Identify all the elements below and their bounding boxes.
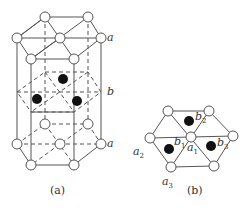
label-a2: a2 xyxy=(133,146,144,160)
label-top-layer-a: a xyxy=(107,32,114,43)
label-b1: b1 xyxy=(174,136,186,150)
label-bottom-layer-a: a xyxy=(107,138,114,149)
hcp-structure-diagram xyxy=(0,0,251,211)
label-b3: b3 xyxy=(217,137,229,151)
caption-a: (a) xyxy=(50,185,65,196)
label-a1: a1 xyxy=(187,142,198,156)
label-b2: b2 xyxy=(195,111,207,125)
label-a3: a3 xyxy=(162,176,173,190)
label-middle-layer-b: b xyxy=(107,86,114,97)
caption-b: (b) xyxy=(187,185,203,196)
